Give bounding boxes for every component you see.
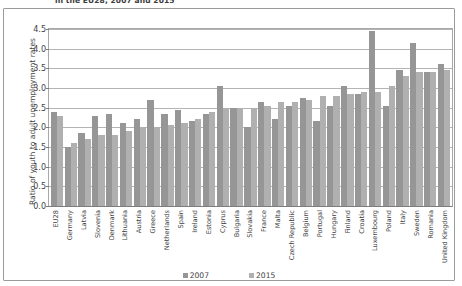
x-axis-label-cell: Luxembourg [368, 208, 382, 270]
x-axis-labels: EU28GermanyLatviaSloveniaDenmarkLithuani… [48, 208, 453, 270]
x-axis-tick-label: Romania [427, 210, 434, 239]
x-axis-tick-label: France [261, 210, 268, 232]
bar-2015 [375, 92, 381, 206]
x-axis-label-cell: Croatia [355, 208, 369, 270]
bar-group [299, 29, 313, 206]
chart-legend: 2007 2015 [4, 271, 454, 280]
bar-2015 [168, 125, 174, 206]
x-axis-label-cell: Latvia [77, 208, 91, 270]
bar-2015 [292, 102, 298, 206]
bar-series-container [49, 29, 452, 206]
bar-group [216, 29, 230, 206]
bar-2015 [306, 100, 312, 206]
x-axis-tick-label: Portugal [316, 210, 323, 237]
legend-item-2015: 2015 [249, 271, 275, 280]
bar-group [340, 29, 354, 206]
bar-2015 [140, 127, 146, 206]
bar-2015 [112, 135, 118, 206]
x-axis-label-cell: Denmark [105, 208, 119, 270]
x-axis-tick-label: Croatia [358, 210, 365, 234]
x-axis-tick-label: Belgium [302, 210, 309, 237]
legend-label-2007: 2007 [190, 271, 209, 280]
x-axis-tick-label: Greece [150, 210, 157, 233]
bar-group [174, 29, 188, 206]
bar-group [368, 29, 382, 206]
y-axis-tick-label: 1.0 [33, 162, 46, 171]
bar-group [188, 29, 202, 206]
bar-2015 [389, 86, 395, 206]
y-axis-tick-label: 3.5 [33, 64, 46, 73]
x-axis-label-cell: Finland [341, 208, 355, 270]
bar-2015 [209, 112, 215, 206]
x-axis-tick-label: Poland [386, 210, 393, 232]
x-axis-tick-label: Latvia [80, 210, 87, 230]
x-axis-tick-label: Bulgaria [233, 210, 240, 237]
x-axis-tick-label: Slovenia [94, 210, 101, 238]
bar-group [202, 29, 216, 206]
x-axis-tick-label: Finland [344, 210, 351, 234]
x-axis-label-cell: Czech Republic [285, 208, 299, 270]
x-axis-label-cell: Hungary [327, 208, 341, 270]
y-axis-tick-label: 4.5 [33, 25, 46, 34]
bar-group [423, 29, 437, 206]
bar-2015 [98, 135, 104, 206]
x-axis-tick-label: EU28 [52, 210, 59, 227]
x-axis-tick-label: Cyprus [219, 210, 226, 233]
x-axis-label-cell: Italy [396, 208, 410, 270]
bar-2015 [264, 106, 270, 206]
bar-2015 [154, 127, 160, 206]
y-axis-tick-label: 2.5 [33, 103, 46, 112]
bar-group [119, 29, 133, 206]
y-axis-tick-label: 2.0 [33, 123, 46, 132]
x-axis-label-cell: Malta [271, 208, 285, 270]
x-axis-tick-label: Hungary [330, 210, 337, 238]
x-axis-label-cell: Bulgaria [230, 208, 244, 270]
bar-group [410, 29, 424, 206]
bar-group [271, 29, 285, 206]
bar-group [230, 29, 244, 206]
bar-2015 [347, 94, 353, 206]
x-axis-label-cell: Estonia [202, 208, 216, 270]
x-axis-tick-label: Denmark [108, 210, 115, 240]
x-axis-label-cell: Ireland [188, 208, 202, 270]
bar-group [147, 29, 161, 206]
bar-2015 [430, 72, 436, 206]
x-axis-label-cell: Lithuania [118, 208, 132, 270]
bar-group [396, 29, 410, 206]
bar-group [91, 29, 105, 206]
plot-area: 0.00.51.01.52.02.53.03.54.04.5 [48, 28, 453, 207]
bar-2015 [126, 131, 132, 206]
x-axis-tick-label: Netherlands [164, 210, 171, 250]
x-axis-label-cell: Austria [132, 208, 146, 270]
x-axis-tick-label: Italy [400, 210, 407, 224]
chart-screenshot: in the EU28, 2007 and 2015 Ratio of yout… [0, 0, 462, 286]
x-axis-tick-label: Estonia [205, 210, 212, 234]
x-axis-label-cell: Slovenia [91, 208, 105, 270]
y-axis-tick-label: 0.5 [33, 182, 46, 191]
x-axis-tick-label: Spain [177, 210, 184, 228]
x-axis-tick-label: Sweden [414, 210, 421, 236]
bar-2015 [181, 123, 187, 206]
x-axis-label-cell: Cyprus [216, 208, 230, 270]
bar-2015 [57, 116, 63, 206]
y-axis-tick-label: 1.5 [33, 143, 46, 152]
x-axis-label-cell: Netherlands [160, 208, 174, 270]
x-axis-tick-label: Malta [275, 210, 282, 228]
bar-2015 [237, 108, 243, 206]
x-axis-tick-label: Lithuania [122, 210, 129, 241]
bar-2015 [85, 139, 91, 206]
bar-group [257, 29, 271, 206]
x-axis-label-cell: Germany [63, 208, 77, 270]
x-axis-label-cell: Greece [146, 208, 160, 270]
bar-2015 [278, 102, 284, 206]
y-axis-tick-label: 4.0 [33, 44, 46, 53]
x-axis-label-cell: Belgium [299, 208, 313, 270]
bar-group [105, 29, 119, 206]
y-axis-tick-label: 3.0 [33, 84, 46, 93]
bar-2015 [71, 143, 77, 206]
x-axis-label-cell: Slovakia [243, 208, 257, 270]
x-axis-tick-label: Slovakia [247, 210, 254, 238]
legend-swatch-icon-2015 [249, 273, 254, 278]
bar-group [161, 29, 175, 206]
x-axis-label-cell: Romania [424, 208, 438, 270]
